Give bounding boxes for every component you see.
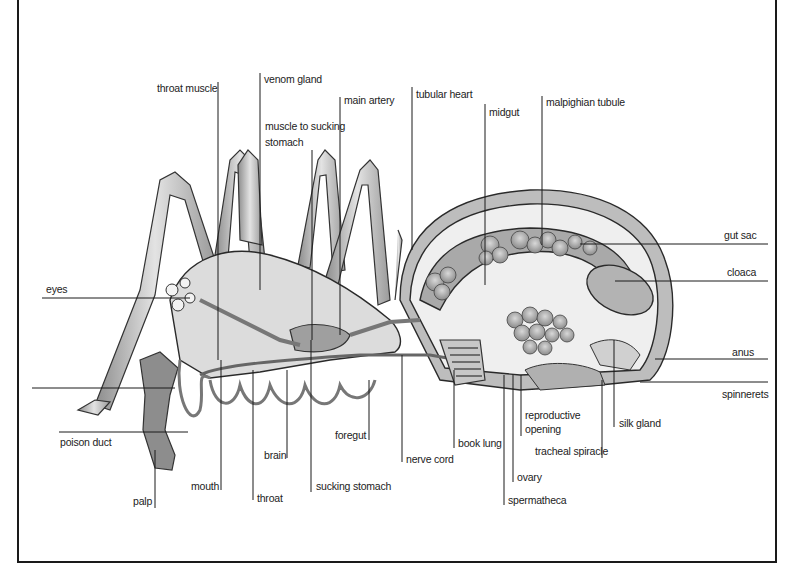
label-brain: brain bbox=[264, 449, 286, 462]
label-spermatheca: spermatheca bbox=[508, 494, 567, 507]
label-main-artery: main artery bbox=[344, 94, 394, 107]
label-reproductive-opening-line2: opening bbox=[525, 423, 561, 436]
label-sucking-stomach: sucking stomach bbox=[316, 480, 391, 493]
label-silk-gland: silk gland bbox=[619, 417, 661, 430]
label-muscle-to-sucking-stomach-line2: stomach bbox=[265, 136, 303, 149]
label-throat-muscle: throat muscle bbox=[157, 82, 217, 95]
label-muscle-to-sucking-stomach-line1: muscle to sucking bbox=[265, 120, 345, 133]
label-tracheal-spiracle: tracheal spiracle bbox=[535, 445, 608, 458]
label-spinnerets: spinnerets bbox=[722, 388, 768, 401]
label-mouth: mouth bbox=[191, 480, 219, 493]
label-venom-gland: venom gland bbox=[264, 73, 322, 86]
label-poison-duct: poison duct bbox=[60, 436, 112, 449]
label-nerve-cord: nerve cord bbox=[406, 453, 454, 466]
label-throat: throat bbox=[257, 492, 283, 505]
label-anus: anus bbox=[732, 346, 754, 359]
label-palp: palp bbox=[133, 495, 152, 508]
label-midgut: midgut bbox=[489, 106, 519, 119]
leader-lines bbox=[0, 0, 793, 582]
label-tubular-heart: tubular heart bbox=[416, 88, 472, 101]
label-eyes: eyes bbox=[46, 283, 67, 296]
label-malpighian-tubule: malpighian tubule bbox=[546, 96, 625, 109]
label-book-lung: book lung bbox=[458, 437, 502, 450]
label-ovary: ovary bbox=[517, 471, 542, 484]
label-reproductive-opening-line1: reproductive bbox=[525, 409, 580, 422]
label-cloaca: cloaca bbox=[727, 266, 756, 279]
label-gut-sac: gut sac bbox=[724, 229, 756, 242]
label-foregut: foregut bbox=[335, 429, 366, 442]
